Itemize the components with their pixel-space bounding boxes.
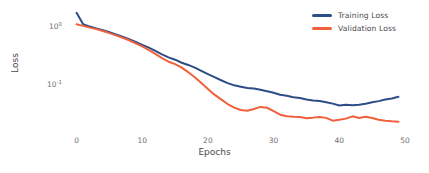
y-tick-mantissa: 10 xyxy=(47,80,57,89)
legend-swatch-icon xyxy=(312,14,332,17)
x-axis-tick-30: 30 xyxy=(269,136,279,145)
legend-item-validation-loss[interactable]: Validation Loss xyxy=(312,24,396,33)
x-axis-tick-20: 20 xyxy=(203,136,213,145)
y-axis-tick-1e-1: 10-1 xyxy=(28,80,62,89)
x-axis-tick-50: 50 xyxy=(400,136,410,145)
x-axis-tick-10: 10 xyxy=(137,136,147,145)
legend-item-training-loss[interactable]: Training Loss xyxy=(312,11,396,20)
x-axis-label: Epochs xyxy=(0,147,429,157)
y-axis-tick-1e0: 100 xyxy=(28,22,62,31)
y-tick-mantissa: 10 xyxy=(49,22,59,31)
chart-legend: Training LossValidation Loss xyxy=(312,11,396,33)
series-line-validation-loss xyxy=(77,24,399,122)
y-axis-label: Loss xyxy=(10,40,20,86)
legend-label: Training Loss xyxy=(338,11,388,20)
y-tick-exponent: -1 xyxy=(57,79,62,85)
y-tick-exponent: 0 xyxy=(59,21,62,27)
legend-label: Validation Loss xyxy=(338,24,396,33)
x-axis-tick-0: 0 xyxy=(74,136,79,145)
legend-swatch-icon xyxy=(312,27,332,30)
loss-curve-chart: 100 10-1 01020304050 Epochs Loss Trainin… xyxy=(0,0,429,173)
x-axis-tick-40: 40 xyxy=(334,136,344,145)
